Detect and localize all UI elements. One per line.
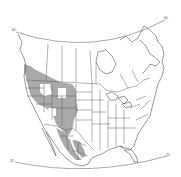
- hudson-bay: [96, 50, 116, 74]
- quebec-labrador: [140, 40, 160, 74]
- map-canvas: [0, 0, 181, 177]
- latitude-60-line: [16, 20, 165, 43]
- lat-label-bottom-left: 20: [10, 160, 13, 163]
- canadian-province-lines: [46, 44, 138, 88]
- lat-label-top-right: 60: [164, 17, 167, 20]
- baja-california: [42, 128, 56, 156]
- great-lakes: [106, 92, 132, 108]
- florida: [120, 146, 138, 162]
- lat-label-bottom-right: 20: [166, 154, 169, 157]
- hatched-range: [24, 64, 86, 160]
- latitude-20-line: [15, 156, 167, 169]
- lat-label-top-left: 60: [12, 29, 15, 32]
- range-map: 60 60 20 20: [0, 0, 181, 177]
